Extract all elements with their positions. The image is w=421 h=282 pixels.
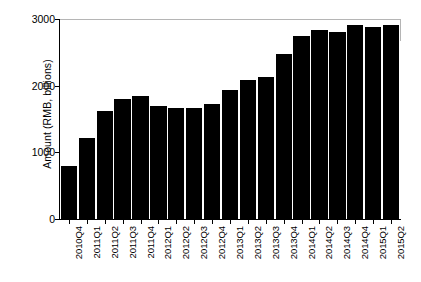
- bar: [186, 108, 202, 219]
- x-axis-tick-label: 2015Q2: [395, 226, 406, 259]
- x-axis-tick-mark: [69, 220, 70, 224]
- x-axis-tick-label: 2011Q4: [145, 226, 156, 259]
- x-axis-tick-mark: [391, 220, 392, 224]
- bar: [383, 25, 399, 219]
- bar: [240, 80, 256, 219]
- x-axis-tick-label: 2015Q1: [377, 226, 388, 259]
- x-axis-tick-label: 2014Q3: [341, 226, 352, 259]
- x-axis-tick-label: 2012Q1: [162, 226, 173, 259]
- y-axis-title: Amount (RMB, billions): [41, 9, 53, 219]
- x-axis-tick-label: 2011Q1: [91, 226, 102, 259]
- bar: [258, 77, 274, 219]
- x-axis-tick-mark: [141, 220, 142, 224]
- x-axis-tick-mark: [194, 220, 195, 224]
- x-axis-tick-mark: [337, 220, 338, 224]
- bar: [276, 54, 292, 219]
- x-axis-tick-label: 2012Q2: [180, 226, 191, 259]
- x-axis-tick-label: 2013Q2: [252, 226, 263, 259]
- chart-figure: Amount (RMB, billions) 0100020003000 201…: [0, 0, 421, 282]
- plot-area: [60, 19, 400, 219]
- bar: [168, 108, 184, 219]
- bar: [114, 99, 130, 219]
- bar: [150, 106, 166, 219]
- bar: [204, 104, 220, 219]
- x-axis-tick-label: 2012Q4: [216, 226, 227, 259]
- x-axis-tick-mark: [248, 220, 249, 224]
- x-axis-tick-mark: [176, 220, 177, 224]
- x-axis-tick-label: 2014Q4: [359, 226, 370, 259]
- x-axis-tick-mark: [284, 220, 285, 224]
- x-axis-tick-label: 2013Q1: [234, 226, 245, 259]
- x-axis-tick-mark: [319, 220, 320, 224]
- x-axis-tick-label: 2012Q3: [198, 226, 209, 259]
- bar: [79, 138, 95, 219]
- y-axis-tick-label: 2000: [13, 80, 55, 92]
- y-axis-tick-label: 0: [13, 213, 55, 225]
- x-axis-tick-mark: [355, 220, 356, 224]
- bar: [347, 25, 363, 219]
- x-axis-tick-mark: [212, 220, 213, 224]
- x-axis-tick-label: 2014Q2: [323, 226, 334, 259]
- x-axis-tick-label: 2010Q4: [73, 226, 84, 259]
- x-axis-tick-mark: [373, 220, 374, 224]
- x-axis-tick-label: 2013Q4: [288, 226, 299, 259]
- x-axis-tick-mark: [123, 220, 124, 224]
- bar: [293, 36, 309, 219]
- bar: [329, 32, 345, 219]
- x-axis-tick-mark: [302, 220, 303, 224]
- x-axis-tick-label: 2013Q3: [270, 226, 281, 259]
- x-axis-tick-label: 2014Q1: [306, 226, 317, 259]
- plot-frame-right: [400, 19, 401, 41]
- y-axis-tick-label: 3000: [13, 13, 55, 25]
- bar: [222, 90, 238, 219]
- x-axis-tick-mark: [266, 220, 267, 224]
- x-axis-tick-label: 2011Q3: [127, 226, 138, 259]
- y-axis-tick-label: 1000: [13, 146, 55, 158]
- x-axis-tick-mark: [87, 220, 88, 224]
- x-axis-tick-mark: [158, 220, 159, 224]
- bar: [97, 111, 113, 219]
- x-axis-tick-mark: [105, 220, 106, 224]
- bar: [365, 27, 381, 219]
- bar: [311, 30, 327, 219]
- x-axis-tick-mark: [230, 220, 231, 224]
- x-axis-tick-label: 2011Q2: [109, 226, 120, 259]
- bar: [61, 166, 77, 219]
- bar: [132, 96, 148, 219]
